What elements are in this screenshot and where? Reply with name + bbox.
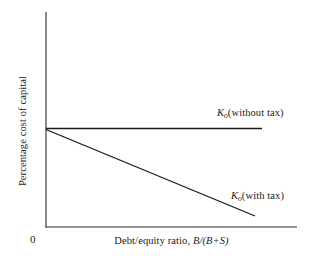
x-axis-title-italic: B/(B+S)	[193, 235, 229, 246]
series-line-with-tax	[46, 130, 255, 217]
series-suffix-without-tax: (without tax)	[228, 107, 284, 118]
series-label-with-tax: Ko(with tax)	[231, 191, 284, 202]
series-suffix-with-tax: (with tax)	[242, 190, 284, 201]
y-axis-title: Percentage cost of capital	[18, 0, 38, 262]
plot-area	[0, 0, 311, 262]
origin-tick-label: 0	[30, 234, 36, 245]
x-axis-title-plain: Debt/equity ratio,	[114, 235, 193, 246]
cost-of-capital-chart: Percentage cost of capital Debt/equity r…	[0, 0, 311, 262]
series-label-without-tax: Ko(without tax)	[217, 108, 284, 119]
x-axis-title: Debt/equity ratio, B/(B+S)	[46, 236, 297, 247]
